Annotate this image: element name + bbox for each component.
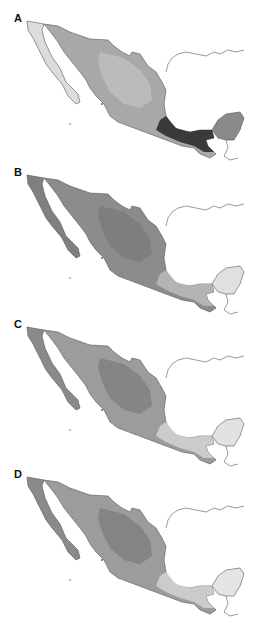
yucatan-peninsula [212, 568, 244, 596]
island [101, 409, 103, 411]
island [69, 429, 71, 431]
gulf-coastline [166, 204, 244, 226]
mexico-map [0, 468, 258, 618]
mexico-map [0, 12, 258, 162]
island [69, 277, 71, 279]
yucatan-peninsula [212, 418, 244, 446]
central-america-border [224, 446, 238, 466]
map-panel-c: C [0, 318, 258, 468]
gulf-coastline [166, 506, 244, 528]
mexico-map [0, 318, 258, 468]
map-panel-d: D [0, 468, 258, 618]
central-america-border [224, 596, 238, 616]
island [101, 559, 103, 561]
gulf-coastline [166, 356, 244, 378]
island [69, 123, 71, 125]
map-panel-b: B [0, 166, 258, 316]
central-america-border [224, 140, 238, 160]
map-panel-a: A [0, 12, 258, 162]
island [101, 103, 103, 105]
island [101, 257, 103, 259]
island [69, 579, 71, 581]
gulf-coastline [166, 50, 244, 72]
yucatan-peninsula [212, 266, 244, 294]
central-america-border [224, 294, 238, 314]
yucatan-peninsula [212, 112, 244, 140]
mexico-map [0, 166, 258, 316]
